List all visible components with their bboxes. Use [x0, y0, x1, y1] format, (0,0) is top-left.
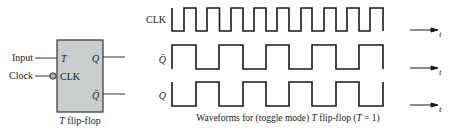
q-pin-label: Q	[92, 53, 100, 64]
qbar-signal-label: Q̄	[159, 54, 167, 65]
diagram-canvas: Input Clock T CLK Q Q̄ T flip-flop t t t…	[0, 0, 451, 131]
clk-waveform	[172, 8, 383, 31]
arrowhead-icon	[431, 28, 438, 32]
flip-flop-caption: T flip-flop	[59, 115, 100, 126]
qbar-waveform	[172, 45, 383, 69]
q-signal-label: Q	[159, 90, 167, 101]
arrowhead-icon	[431, 103, 438, 107]
arrowhead-icon	[431, 66, 438, 70]
t-axis-label: t	[439, 67, 442, 77]
waveform-caption: Waveforms for (toggle mode) T flip-flop …	[196, 113, 380, 124]
inversion-bubble-icon	[50, 73, 56, 79]
waveforms	[172, 8, 383, 106]
q-waveform	[172, 82, 383, 106]
time-axes	[410, 28, 438, 107]
t-axis-label: t	[439, 29, 442, 39]
t-axis-label: t	[439, 104, 442, 114]
clock-label: Clock	[9, 70, 33, 81]
t-flip-flop: Input Clock T CLK Q Q̄ T flip-flop	[9, 40, 125, 126]
clk-pin-label: CLK	[60, 71, 81, 82]
qbar-pin-label: Q̄	[92, 90, 100, 101]
clk-signal-label: CLK	[146, 14, 167, 25]
input-label: Input	[12, 52, 33, 63]
